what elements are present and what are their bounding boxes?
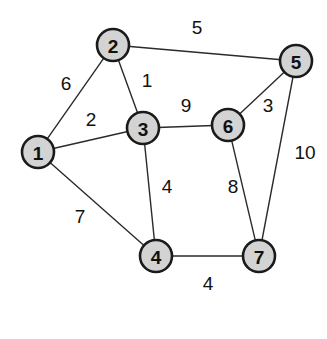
graph-node-6[interactable]: 6 [212, 109, 244, 141]
edge-weight-3-6: 9 [181, 95, 192, 116]
edge-weights-layer: 627159431084 [61, 17, 316, 294]
edge-weight-5-6: 3 [263, 95, 274, 116]
graph-edge-3-4 [144, 142, 154, 241]
node-label-7: 7 [254, 247, 265, 268]
node-label-1: 1 [33, 143, 44, 164]
graph-edge-1-3 [52, 131, 129, 149]
node-label-3: 3 [138, 119, 149, 140]
node-label-2: 2 [108, 36, 119, 57]
nodes-layer: 1234567 [22, 29, 312, 272]
node-label-6: 6 [223, 116, 234, 137]
edge-weight-4-7: 4 [203, 273, 214, 294]
graph-node-4[interactable]: 4 [140, 240, 172, 272]
edge-weight-1-3: 2 [86, 109, 97, 130]
graph-figure: 627159431084 1234567 [0, 0, 327, 339]
graph-edge-1-4 [49, 162, 145, 247]
graph-edge-2-3 [118, 59, 138, 115]
graph-edge-3-6 [157, 126, 213, 128]
graph-node-1[interactable]: 1 [22, 136, 54, 168]
edge-weight-1-2: 6 [61, 73, 72, 94]
graph-canvas: 627159431084 1234567 [0, 0, 327, 339]
graph-node-5[interactable]: 5 [280, 45, 312, 77]
edge-weight-5-7: 10 [294, 142, 315, 163]
graph-edge-2-5 [127, 46, 281, 59]
node-label-5: 5 [291, 52, 302, 73]
node-label-4: 4 [151, 247, 162, 268]
graph-node-3[interactable]: 3 [127, 112, 159, 144]
edge-weight-1-4: 7 [75, 206, 86, 227]
edge-weight-6-7: 8 [228, 176, 239, 197]
edge-weight-2-3: 1 [142, 70, 153, 91]
graph-node-7[interactable]: 7 [243, 240, 275, 272]
graph-node-2[interactable]: 2 [97, 29, 129, 61]
edge-weight-3-4: 4 [162, 176, 173, 197]
edge-weight-2-5: 5 [192, 17, 203, 38]
